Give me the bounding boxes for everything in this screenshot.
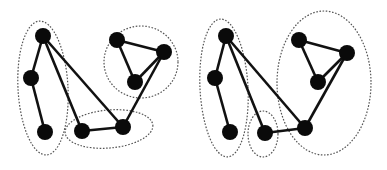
graph-node (339, 45, 355, 61)
graph-clustering-figure (0, 0, 387, 170)
graph-node (115, 119, 131, 135)
graph-node (35, 28, 51, 44)
graph-edge (123, 52, 164, 127)
graph-node (23, 70, 39, 86)
graph-node (74, 123, 90, 139)
graph-edge (215, 78, 230, 132)
graph-panel-right (196, 11, 371, 158)
graph-edge (43, 36, 123, 127)
graph-node (109, 32, 125, 48)
graph-node (207, 70, 223, 86)
graph-node (257, 125, 273, 141)
graph-edge (31, 78, 45, 132)
graph-node (218, 28, 234, 44)
graph-edge (226, 36, 305, 128)
graph-node (291, 32, 307, 48)
graph-node (156, 44, 172, 60)
graph-node (37, 124, 53, 140)
graph-node (310, 74, 326, 90)
graph-node (222, 124, 238, 140)
figure-svg (0, 0, 387, 170)
graph-node (127, 74, 143, 90)
graph-edge (226, 36, 265, 133)
graph-panel-left (15, 20, 178, 156)
graph-node (297, 120, 313, 136)
